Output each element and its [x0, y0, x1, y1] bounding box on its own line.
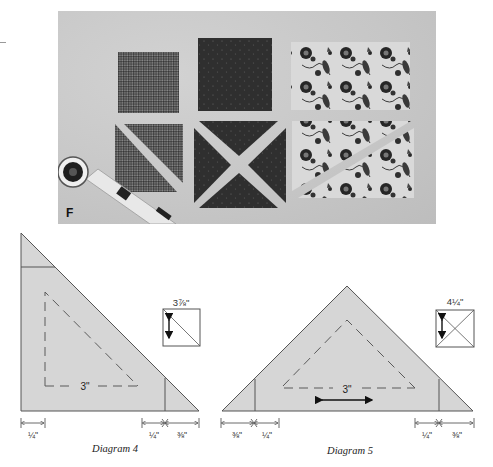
cut-square-size: 3⅞" [173, 297, 190, 308]
diagram-5: 3" ⅜" ¼" ¼" ⅜" 4¼" [221, 286, 474, 456]
dim-right-tip: ⅜" [452, 430, 462, 440]
book-page: F 3" [0, 0, 493, 467]
diagram-caption: Diagram 5 [326, 445, 373, 456]
dim-right-seam: ¼" [149, 430, 159, 440]
diagram-caption: Diagram 4 [91, 443, 139, 454]
dim-right-seam: ¼" [422, 430, 432, 440]
dim-left-seam: ¼" [28, 430, 38, 440]
dim-right-tip: ⅜" [177, 430, 187, 440]
dim-left-seam: ¼" [262, 430, 272, 440]
finished-size-label: 3" [342, 384, 352, 395]
cut-square-size: 4¼" [447, 296, 464, 307]
dim-left-tip: ⅜" [232, 430, 242, 440]
diagrams: 3" ¼" ¼" ⅜" 3⅞" Diagram 4 [0, 0, 493, 467]
diagram-4: 3" ¼" ¼" ⅜" 3⅞" Diagram 4 [21, 233, 200, 454]
finished-size-label: 3" [80, 381, 90, 392]
